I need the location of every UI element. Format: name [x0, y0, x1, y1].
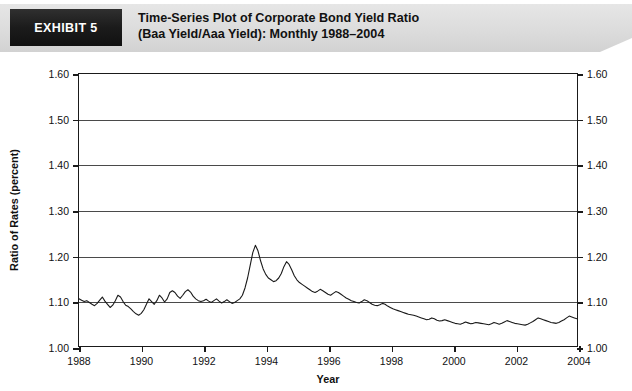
- x-tick-mark: [204, 346, 206, 352]
- x-tick-mark: [392, 346, 394, 352]
- y-tick-label-1.40: 1.40: [49, 159, 69, 171]
- y-tick-label-1.30: 1.30: [49, 205, 69, 217]
- exhibit-title-line-2: (Baa Yield/Aaa Yield): Monthly 1988–2004: [138, 26, 608, 42]
- y-tick-label-1.20: 1.20: [49, 251, 69, 263]
- x-tick-mark: [329, 346, 331, 352]
- y-tick-label-1.00: 1.00: [587, 342, 607, 354]
- y-tick-label-1.50: 1.50: [587, 114, 607, 126]
- x-tick-label-1990: 1990: [130, 355, 153, 367]
- chart-figure: Ratio of Rates (percent) 1.001.101.201.3…: [0, 56, 632, 391]
- x-tick-mark: [142, 346, 144, 352]
- x-tick-label-2002: 2002: [505, 355, 528, 367]
- y-tick-mark: [577, 302, 583, 304]
- plot-area: 1.001.101.201.301.401.501.60 1.001.101.2…: [78, 73, 578, 347]
- exhibit-title: Time-Series Plot of Corporate Bond Yield…: [138, 10, 608, 42]
- y-tick-mark: [577, 120, 583, 122]
- y-tick-mark: [577, 74, 583, 76]
- exhibit-tag: EXHIBIT 5: [10, 9, 122, 46]
- x-axis-title-label: Year: [317, 373, 340, 385]
- x-tick-mark: [579, 346, 581, 352]
- x-tick-label-1988: 1988: [67, 355, 90, 367]
- x-tick-mark: [79, 346, 81, 352]
- y-tick-label-1.60: 1.60: [49, 68, 69, 80]
- y-tick-label-1.60: 1.60: [587, 68, 607, 80]
- exhibit-title-line-1: Time-Series Plot of Corporate Bond Yield…: [138, 10, 608, 26]
- y-tick-label-1.50: 1.50: [49, 114, 69, 126]
- exhibit-header: EXHIBIT 5 Time-Series Plot of Corporate …: [0, 0, 632, 56]
- series-line-baa-aaa-ratio: [79, 74, 577, 346]
- x-tick-mark: [267, 346, 269, 352]
- y-tick-label-1.00: 1.00: [49, 342, 69, 354]
- x-tick-label-2000: 2000: [442, 355, 465, 367]
- x-tick-label-1998: 1998: [380, 355, 403, 367]
- y-tick-mark: [577, 257, 583, 259]
- y-axis-title: Ratio of Rates (percent): [6, 73, 22, 347]
- x-tick-label-2004: 2004: [567, 355, 590, 367]
- x-tick-label-1996: 1996: [317, 355, 340, 367]
- x-tick-mark: [454, 346, 456, 352]
- x-tick-label-1992: 1992: [192, 355, 215, 367]
- x-tick-mark: [517, 346, 519, 352]
- y-tick-mark: [577, 165, 583, 167]
- y-tick-label-1.10: 1.10: [587, 296, 607, 308]
- x-axis-title: Year: [78, 373, 578, 385]
- y-axis-title-label: Ratio of Rates (percent): [8, 149, 20, 271]
- y-tick-label-1.20: 1.20: [587, 251, 607, 263]
- exhibit-tag-label: EXHIBIT 5: [34, 21, 97, 35]
- x-tick-label-1994: 1994: [255, 355, 278, 367]
- y-tick-label-1.40: 1.40: [587, 159, 607, 171]
- y-tick-mark: [577, 211, 583, 213]
- y-tick-label-1.30: 1.30: [587, 205, 607, 217]
- y-tick-label-1.10: 1.10: [49, 296, 69, 308]
